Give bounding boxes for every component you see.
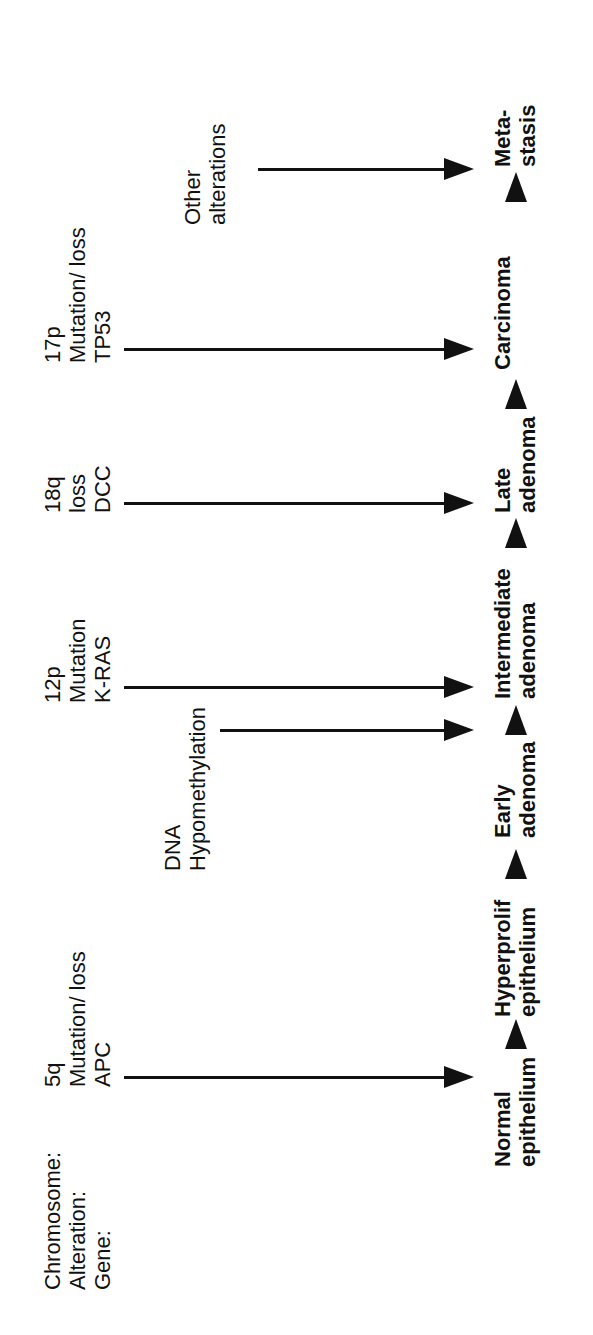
- event-chromosome: 5q: [40, 951, 65, 1087]
- arrow-hypomethylation-line: [220, 729, 446, 732]
- event-gene: K-RAS: [90, 619, 115, 703]
- stage-early-adenoma: Early adenoma: [490, 741, 540, 838]
- stage-line2: adenoma: [515, 741, 540, 838]
- stage-line1: Late: [490, 416, 515, 513]
- stage-line1: Intermediate: [490, 568, 515, 699]
- alteration-header: Alteration:: [65, 1152, 90, 1290]
- arrow-kras-head: [444, 676, 474, 698]
- event-chromosome: 17p: [40, 227, 65, 363]
- event-line2: Hypomethylation: [185, 707, 210, 871]
- arrow-other-head: [444, 158, 474, 180]
- event-chromosome: 12p: [40, 619, 65, 703]
- stage-line1: Early: [490, 741, 515, 838]
- event-alteration: Mutation/ loss: [65, 227, 90, 363]
- event-line1: DNA: [160, 707, 185, 871]
- event-chromosome: 18q: [40, 465, 65, 513]
- event-other: Other alterations: [180, 123, 230, 225]
- event-gene: DCC: [90, 465, 115, 513]
- event-line2: alterations: [205, 123, 230, 225]
- event-alteration: Mutation: [65, 619, 90, 703]
- row-headers: Chromosome: Alteration: Gene:: [40, 1152, 115, 1290]
- event-dcc: 18q loss DCC: [40, 465, 115, 513]
- stage-hyperproliferative-epithelium: Hyperprolif epithelium: [490, 900, 540, 1017]
- stage-line1: Hyperprolif: [490, 900, 515, 1017]
- event-alteration: Mutation/ loss: [65, 951, 90, 1087]
- stage-line1: Carcinoma: [490, 256, 515, 370]
- stage-metastasis: Meta- stasis: [490, 105, 540, 167]
- event-hypomethylation: DNA Hypomethylation: [160, 707, 210, 871]
- arrow-tp53-head: [444, 338, 474, 360]
- event-apc: 5q Mutation/ loss APC: [40, 951, 115, 1087]
- arrow-hypomethylation-head: [444, 719, 474, 741]
- progression-arrow-3: [505, 705, 527, 735]
- arrow-apc-line: [124, 1076, 446, 1079]
- event-gene: APC: [90, 951, 115, 1087]
- event-tp53: 17p Mutation/ loss TP53: [40, 227, 115, 363]
- stage-carcinoma: Carcinoma: [490, 256, 515, 370]
- gene-header: Gene:: [90, 1152, 115, 1290]
- progression-arrow-5: [505, 379, 527, 409]
- stage-intermediate-adenoma: Intermediate adenoma: [490, 568, 540, 699]
- stage-line2: epithelium: [515, 1057, 540, 1167]
- chromosome-header: Chromosome:: [40, 1152, 65, 1290]
- stage-normal-epithelium: Normal epithelium: [490, 1057, 540, 1167]
- event-kras: 12p Mutation K-RAS: [40, 619, 115, 703]
- arrow-kras-line: [124, 686, 446, 689]
- event-gene: TP53: [90, 227, 115, 363]
- colorectal-progression-diagram: Chromosome: Alteration: Gene: 5q Mutatio…: [0, 0, 593, 1335]
- arrow-dcc-line: [124, 502, 446, 505]
- arrow-tp53-line: [124, 348, 446, 351]
- stage-line2: adenoma: [515, 416, 540, 513]
- event-alteration: loss: [65, 465, 90, 513]
- arrow-other-line: [258, 168, 446, 171]
- event-line1: Other: [180, 123, 205, 225]
- progression-arrow-2: [505, 849, 527, 879]
- progression-arrow-4: [505, 518, 527, 548]
- stage-line1: Meta-: [490, 105, 515, 167]
- arrow-dcc-head: [444, 492, 474, 514]
- progression-arrow-1: [505, 1019, 527, 1049]
- stage-line2: epithelium: [515, 900, 540, 1017]
- progression-arrow-6: [505, 172, 527, 202]
- stage-line2: adenoma: [515, 568, 540, 699]
- stage-line2: stasis: [515, 105, 540, 167]
- arrow-apc-head: [444, 1066, 474, 1088]
- stage-late-adenoma: Late adenoma: [490, 416, 540, 513]
- stage-line1: Normal: [490, 1057, 515, 1167]
